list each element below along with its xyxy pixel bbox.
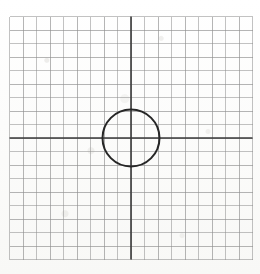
axis-lines bbox=[10, 17, 253, 260]
graph-paper-sheet bbox=[0, 0, 260, 274]
grid-diagram bbox=[0, 0, 260, 274]
